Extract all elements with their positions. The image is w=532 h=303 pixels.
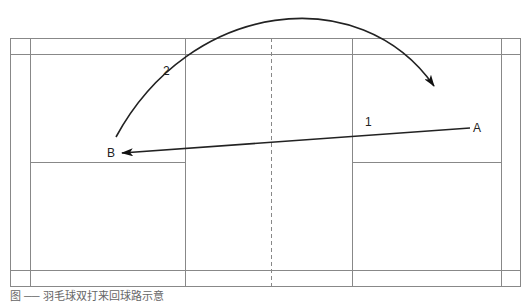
shot-1-label: 1 xyxy=(365,115,372,129)
shot-1-arrow xyxy=(122,128,470,153)
point-a-label: A xyxy=(473,121,481,135)
shot-2-label: 2 xyxy=(163,64,170,78)
point-b-label: B xyxy=(107,146,115,160)
court-lines xyxy=(10,38,521,287)
figure-caption: 图 ── 羽毛球双打来回球路示意 xyxy=(10,287,164,303)
